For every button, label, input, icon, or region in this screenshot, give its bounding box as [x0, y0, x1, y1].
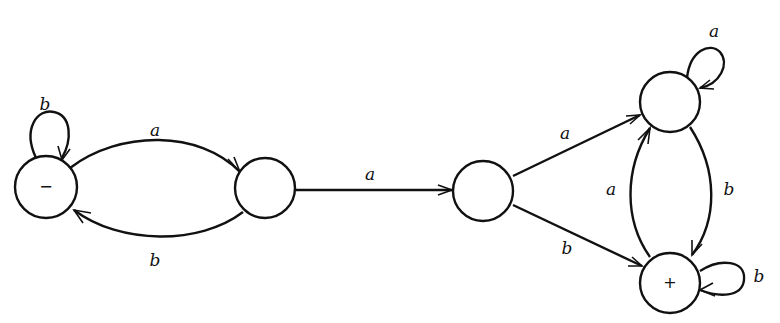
state-s3 — [453, 161, 513, 221]
label-s4-loop: a — [709, 21, 719, 41]
label-s5-loop: b — [754, 266, 765, 286]
label-s1-s2: a — [150, 120, 160, 140]
automaton-diagram: b a b a a b a b a b − + — [0, 0, 780, 323]
label-s5-s4: a — [606, 179, 616, 199]
arrowhead-s5-s4 — [638, 128, 650, 144]
label-s1-loop: b — [40, 94, 51, 114]
edge-s1-s2 — [70, 140, 240, 172]
edge-s5-loop — [700, 263, 744, 295]
label-s3-s4: a — [560, 123, 570, 143]
start-mark: − — [39, 177, 52, 196]
state-s2 — [235, 158, 295, 218]
edge-s3-s4 — [513, 115, 640, 176]
edge-s2-s1 — [74, 210, 243, 237]
label-s2-s3: a — [365, 164, 375, 184]
label-s2-s1: b — [150, 250, 161, 270]
diagram-svg: b a b a a b a b a b − + — [0, 0, 780, 323]
label-s3-s5: b — [562, 238, 573, 258]
edge-s5-s4 — [631, 128, 651, 257]
state-s4 — [640, 72, 700, 132]
label-s4-s5: b — [724, 179, 735, 199]
edge-s3-s5 — [513, 205, 642, 266]
edge-s4-s5 — [690, 127, 711, 255]
arrowhead-s1-s2 — [228, 157, 240, 172]
final-mark: + — [663, 273, 676, 292]
edge-s1-loop — [31, 111, 69, 158]
